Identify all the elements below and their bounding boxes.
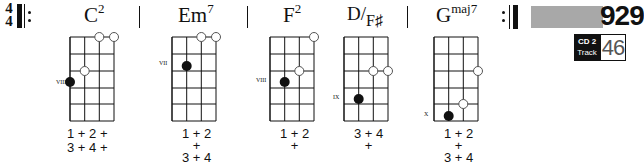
chord-grid-gmaj7 (434, 37, 483, 121)
chord-grid-c2 (65, 33, 119, 122)
chord-grid-em7 (172, 33, 221, 122)
strum-count-gmaj7: 1 + 2 +3 + 4 (444, 127, 473, 165)
fret-position-label: X (424, 111, 428, 117)
fret-position-label: IX (333, 94, 339, 100)
fret-position-label: VIII (256, 77, 266, 83)
strum-count-d-over-fsharp: 3 + 4 + (354, 127, 383, 151)
fret-position-label: VII (159, 60, 167, 66)
fret-position-label: VIII (56, 79, 66, 85)
strum-count-c2: 1 + 2 +3 + 4 + (67, 127, 107, 155)
chord-grid-d-over-fsharp (344, 37, 393, 121)
strum-count-f2: 1 + 2 + (280, 127, 309, 151)
chord-grid-f2 (270, 33, 319, 122)
strum-count-em7: 1 + 2 +3 + 4 (182, 127, 211, 165)
